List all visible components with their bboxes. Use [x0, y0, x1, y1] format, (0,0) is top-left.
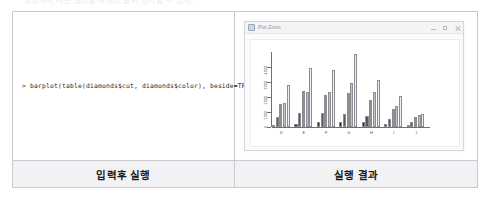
bar	[309, 68, 312, 127]
bar	[272, 125, 275, 127]
x-axis-tick-label: F	[321, 131, 331, 135]
y-axis-tick-label: 3000	[264, 81, 268, 89]
y-axis-tick-label: 2000	[264, 96, 268, 104]
bar	[279, 104, 282, 127]
maximize-button[interactable]	[443, 26, 448, 31]
console-panel: > barplot(table(diamonds$cut, diamonds$c…	[13, 12, 235, 160]
bar	[377, 80, 380, 127]
bar	[384, 124, 387, 127]
bar	[362, 122, 365, 127]
y-axis-tick-label: 4000	[264, 66, 268, 74]
bar	[365, 116, 368, 127]
bar	[328, 92, 331, 127]
bar	[287, 85, 290, 128]
bar	[276, 117, 279, 127]
y-axis-tick-label: 1000	[264, 111, 268, 119]
right-footer-label: 실행 결과	[235, 161, 477, 187]
bar	[347, 93, 350, 127]
bar	[399, 96, 402, 127]
bar-group	[317, 52, 335, 127]
bar	[294, 124, 297, 127]
bar	[392, 109, 395, 127]
window-controls	[431, 22, 460, 34]
bar	[324, 95, 327, 127]
bar	[407, 125, 410, 127]
plot-result-panel: Plot Zoom 01000200030004000 DEFGHIJ	[235, 12, 477, 160]
plot-zoom-window[interactable]: Plot Zoom 01000200030004000 DEFGHIJ	[244, 21, 464, 151]
bar	[339, 122, 342, 127]
x-axis-tick-label: H	[366, 131, 376, 135]
x-axis-tick-label: G	[344, 131, 354, 135]
bar	[418, 115, 421, 127]
plot-canvas: 01000200030004000 DEFGHIJ	[250, 39, 460, 147]
close-button[interactable]	[455, 26, 460, 31]
r-console-command: > barplot(table(diamonds$cut, diamonds$c…	[13, 82, 258, 90]
bar	[369, 100, 372, 127]
bar	[388, 119, 391, 127]
clipped-top-text: 과정에서 나온 결과를 아래와 같이 정리할 수 있다.	[24, 0, 193, 5]
bar	[414, 117, 417, 127]
bar	[317, 122, 320, 127]
bar-group	[407, 52, 425, 127]
bar-chart: 01000200030004000 DEFGHIJ	[251, 40, 459, 146]
x-axis-tick-label: J	[411, 131, 421, 135]
y-axis-tick-label-wrap: 0	[251, 124, 266, 130]
right-footer-cell: 실행 결과	[235, 160, 477, 187]
chart-window-icon	[248, 24, 255, 31]
bar	[283, 103, 286, 127]
x-axis-tick-label: I	[389, 131, 399, 135]
y-axis-tick-label-wrap: 4000	[251, 64, 266, 70]
bar-group	[294, 52, 312, 127]
bar	[298, 113, 301, 127]
x-axis-tick-label: E	[299, 131, 309, 135]
bar	[306, 92, 309, 127]
left-footer-label: 입력후 실행	[13, 161, 234, 187]
bar	[302, 91, 305, 127]
bar	[410, 122, 413, 127]
bar-group	[272, 52, 290, 127]
bar	[373, 92, 376, 127]
bar	[343, 114, 346, 127]
y-axis-tick-label-wrap: 1000	[251, 109, 266, 115]
y-axis-tick-label: 0	[264, 126, 268, 128]
left-footer-cell: 입력후 실행	[13, 160, 235, 187]
minimize-button[interactable]	[431, 26, 436, 31]
bar-group	[384, 52, 402, 127]
bar	[395, 106, 398, 127]
x-axis-tick-label: D	[276, 131, 286, 135]
bar	[354, 54, 357, 127]
bar-group	[339, 52, 357, 127]
y-axis-tick-label-wrap: 3000	[251, 79, 266, 85]
bar	[350, 83, 353, 127]
bar-group	[362, 52, 380, 127]
y-axis-tick-label-wrap: 2000	[251, 94, 266, 100]
plot-window-titlebar[interactable]: Plot Zoom	[245, 22, 463, 34]
bar	[421, 114, 424, 127]
bar	[321, 113, 324, 127]
comparison-table: > barplot(table(diamonds$cut, diamonds$c…	[12, 11, 478, 188]
x-axis	[272, 127, 430, 128]
plot-window-title: Plot Zoom	[258, 25, 281, 30]
clipped-top-text-strip: 과정에서 나온 결과를 아래와 같이 정리할 수 있다.	[0, 0, 492, 9]
bar	[332, 70, 335, 127]
bar-groups	[272, 52, 425, 127]
